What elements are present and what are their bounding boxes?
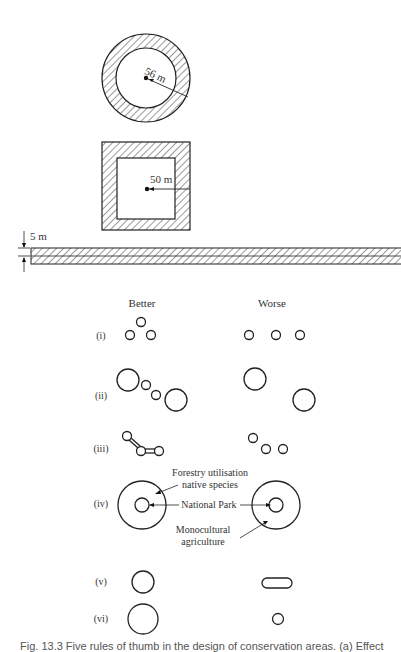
row-i-worse (245, 331, 305, 340)
svg-text:native species: native species (182, 479, 238, 490)
row-ii-worse (244, 368, 315, 411)
row-iii-better (123, 432, 164, 456)
row-v-worse (262, 578, 292, 588)
column-header-better: Better (129, 297, 156, 309)
row-iii-worse (249, 434, 288, 454)
row-v-better (132, 571, 154, 593)
row-vi-worse (273, 614, 284, 625)
svg-text:Forestry utilisation: Forestry utilisation (172, 467, 248, 478)
row-label-ii: (ii) (95, 390, 107, 402)
row-vi-better (128, 604, 158, 634)
square-half-label: 50 m (150, 173, 173, 185)
row-i-better (126, 318, 156, 340)
svg-text:National Park: National Park (181, 499, 236, 510)
svg-text:agriculture: agriculture (181, 536, 225, 547)
row-label-iii: (iii) (94, 443, 109, 455)
strip-reserve (18, 231, 401, 272)
row-label-iv: (iv) (94, 498, 108, 510)
strip-width-label: 5 m (30, 230, 47, 242)
circular-reserve (102, 34, 190, 122)
row-label-i: (i) (96, 330, 105, 342)
column-header-worse: Worse (258, 297, 286, 309)
figure-caption: Fig. 13.3 Five rules of thumb in the des… (20, 640, 401, 652)
square-reserve (102, 142, 190, 230)
svg-text:Monocultural: Monocultural (176, 524, 231, 535)
row-label-vi: (vi) (94, 613, 108, 625)
row-label-v: (v) (95, 576, 107, 588)
row-ii-better (117, 369, 187, 411)
